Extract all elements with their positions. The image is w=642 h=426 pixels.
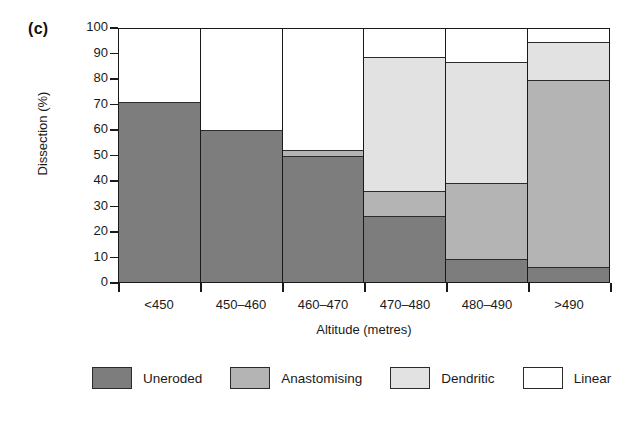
y-tick-mark [110,155,118,157]
chart-legend: UnerodedAnastomisingDendriticLinear [92,367,572,389]
y-tick-label: 80 [94,70,108,85]
legend-label: Uneroded [143,371,202,386]
y-tick-label: 100 [86,19,108,34]
y-tick-mark [110,231,118,233]
y-tick-label: 30 [94,198,108,213]
y-axis-title: Dissection (%) [35,54,50,214]
x-tick-label: <450 [118,297,200,312]
bar-segment-dendritic[interactable] [446,62,527,183]
bar-segment-linear[interactable] [446,29,527,62]
bar-segment-linear[interactable] [528,29,609,42]
legend-label: Linear [574,371,612,386]
y-tick-label: 60 [94,121,108,136]
bar-segment-uneroded[interactable] [201,130,282,282]
bar-segment-uneroded[interactable] [446,259,527,282]
legend-swatch-icon [92,367,132,389]
legend-swatch-icon [230,367,270,389]
y-tick-label: 90 [94,45,108,60]
bar-segment-dendritic[interactable] [364,57,445,191]
y-tick-label: 0 [101,274,108,289]
x-tick-label: 450–460 [200,297,282,312]
bar-segment-linear[interactable] [119,29,200,102]
bar-segment-uneroded[interactable] [364,216,445,282]
y-tick-mark [110,282,118,284]
bar-segment-anastomising[interactable] [364,191,445,216]
bar-segment-anastomising[interactable] [446,183,527,259]
x-tick-mark [446,283,448,292]
y-tick-label: 40 [94,172,108,187]
legend-swatch-icon [390,367,430,389]
x-tick-mark [282,283,284,292]
bar-column[interactable] [364,29,446,282]
y-tick-mark [110,53,118,55]
y-tick-mark [110,27,118,29]
y-tick-label: 20 [94,223,108,238]
legend-item-uneroded[interactable]: Uneroded [92,367,202,389]
legend-label: Dendritic [441,371,494,386]
bar-column[interactable] [283,29,365,282]
y-tick-mark [110,180,118,182]
y-tick-mark [110,129,118,131]
y-tick-mark [110,257,118,259]
bar-segment-anastomising[interactable] [528,80,609,267]
legend-item-dendritic[interactable]: Dendritic [390,367,494,389]
y-tick-label: 50 [94,147,108,162]
bar-segment-linear[interactable] [283,29,364,150]
bar-column[interactable] [201,29,283,282]
x-tick-label: >490 [528,297,610,312]
plot-area [118,28,610,283]
x-tick-mark [610,283,612,292]
bar-segment-linear[interactable] [201,29,282,130]
figure-panel-c: (c) Dissection (%) 010203040506070809010… [0,0,642,426]
panel-label: (c) [28,20,48,38]
bar-column[interactable] [528,29,609,282]
x-tick-mark [364,283,366,292]
y-tick-mark [110,104,118,106]
y-tick-mark [110,78,118,80]
bar-segment-uneroded[interactable] [119,102,200,282]
legend-label: Anastomising [281,371,362,386]
x-tick-label: 470–480 [364,297,446,312]
bar-segment-uneroded[interactable] [283,156,364,283]
legend-item-anastomising[interactable]: Anastomising [230,367,362,389]
legend-item-linear[interactable]: Linear [523,367,612,389]
x-axis-title: Altitude (metres) [118,322,610,337]
y-tick-label: 10 [94,249,108,264]
bar-segment-dendritic[interactable] [528,42,609,80]
y-tick-label: 70 [94,96,108,111]
bar-column[interactable] [119,29,201,282]
bar-column[interactable] [446,29,528,282]
legend-swatch-icon [523,367,563,389]
x-tick-mark [118,283,120,292]
bar-segment-linear[interactable] [364,29,445,57]
x-tick-label: 460–470 [282,297,364,312]
x-tick-label: 480–490 [446,297,528,312]
y-tick-mark [110,206,118,208]
x-tick-mark [200,283,202,292]
x-tick-labels: <450450–460460–470470–480480–490>490 [118,297,610,312]
x-tick-mark [528,283,530,292]
bar-segment-uneroded[interactable] [528,267,609,282]
